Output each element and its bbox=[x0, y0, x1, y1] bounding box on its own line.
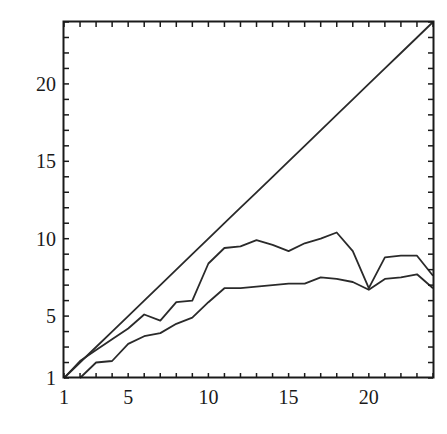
y-tick-label: 20 bbox=[36, 73, 56, 95]
y-tick-label: 15 bbox=[36, 150, 56, 172]
y-axis-tick-labels: 15101520 bbox=[36, 73, 56, 389]
series-line-diagonal bbox=[64, 22, 433, 378]
x-tick-label: 20 bbox=[359, 386, 379, 408]
series-layer bbox=[64, 22, 433, 378]
y-tick-label: 10 bbox=[36, 228, 56, 250]
y-tick-label: 5 bbox=[46, 305, 56, 327]
x-tick-label: 1 bbox=[59, 386, 69, 408]
y-tick-label: 1 bbox=[46, 367, 56, 389]
x-tick-label: 5 bbox=[123, 386, 133, 408]
x-tick-label: 10 bbox=[198, 386, 218, 408]
line-chart: 15101520 15101520 bbox=[0, 0, 447, 434]
x-tick-label: 15 bbox=[279, 386, 299, 408]
x-axis-tick-labels: 15101520 bbox=[59, 386, 379, 408]
series-line-lower bbox=[80, 274, 433, 378]
series-line-upper bbox=[64, 233, 433, 379]
